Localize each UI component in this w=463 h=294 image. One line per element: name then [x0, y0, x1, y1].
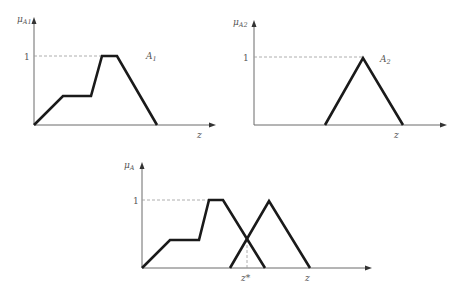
x-axis-label: z: [196, 130, 202, 140]
x-axis-arrow-icon: [209, 123, 216, 128]
tick-one: 1: [24, 52, 30, 62]
tick-one: 1: [243, 53, 249, 63]
chart-a1: μA1 1 z A1: [17, 14, 216, 140]
y-axis-arrow-icon: [252, 20, 257, 27]
x-axis-label: z: [304, 273, 310, 283]
y-axis-label: μA1: [17, 14, 32, 26]
set-label-a1: A1: [145, 51, 157, 63]
y-axis-arrow-icon: [32, 17, 37, 24]
y-axis-label: μA2: [233, 17, 248, 29]
membership-curve-a2: [325, 58, 403, 125]
membership-curve-a1: [142, 200, 265, 268]
y-axis-label: μA: [124, 160, 135, 172]
chart-union-a: μA 1 z* z: [124, 160, 372, 283]
tick-one: 1: [133, 196, 139, 206]
fuzzy-membership-figure: μA1 1 z A1 μA2 1 z A2 μA 1 z* z: [0, 0, 463, 294]
chart-a2: μA2 1 z A2: [233, 17, 447, 140]
x-axis-arrow-icon: [440, 123, 447, 128]
x-axis-label: z: [393, 130, 399, 140]
membership-curve-a1: [34, 56, 157, 125]
y-axis-arrow-icon: [140, 162, 145, 169]
membership-curve-a2: [230, 201, 310, 268]
set-label-a2: A2: [379, 54, 391, 66]
x-axis-arrow-icon: [365, 266, 372, 271]
z-star-label: z*: [240, 273, 251, 283]
